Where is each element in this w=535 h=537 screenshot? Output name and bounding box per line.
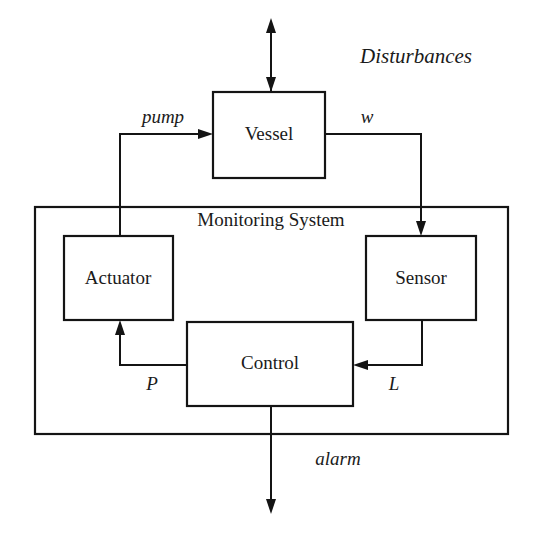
block-diagram: Monitoring System Disturbances Vessel pu… — [0, 0, 535, 537]
disturbances-arrowhead-down — [266, 77, 276, 92]
l-label: L — [388, 373, 400, 394]
disturbances-arrowhead-up — [266, 18, 276, 33]
sensor-label: Sensor — [395, 267, 447, 288]
diagram-canvas: Monitoring System Disturbances Vessel pu… — [0, 0, 535, 537]
monitoring-system-label: Monitoring System — [197, 209, 344, 230]
p-label: P — [145, 373, 158, 394]
pump-arrowhead — [198, 129, 213, 139]
w-label: w — [361, 106, 374, 127]
pump-label: pump — [140, 106, 184, 127]
alarm-arrowhead — [266, 499, 276, 514]
vessel-label: Vessel — [245, 123, 294, 144]
disturbances-label: Disturbances — [359, 44, 472, 68]
control-label: Control — [241, 352, 299, 373]
actuator-label: Actuator — [85, 267, 152, 288]
alarm-label: alarm — [315, 448, 360, 469]
